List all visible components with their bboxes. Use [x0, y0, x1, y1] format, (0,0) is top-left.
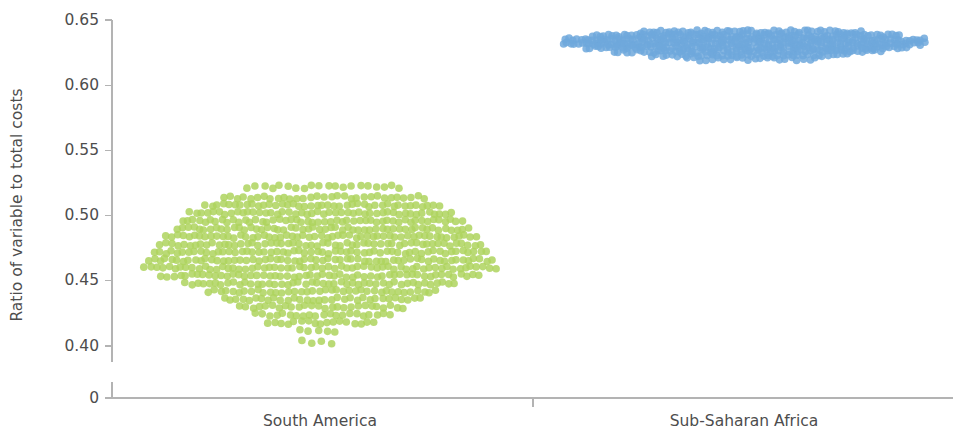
- series-2: [560, 26, 929, 64]
- swarm-point: [420, 195, 428, 203]
- swarm-point: [307, 202, 315, 210]
- swarm-point: [163, 273, 171, 281]
- swarm-point: [844, 50, 852, 58]
- swarm-point: [345, 287, 353, 295]
- swarm-point: [452, 218, 460, 226]
- swarm-point: [276, 273, 284, 281]
- swarm-point: [265, 200, 273, 208]
- swarm-point: [331, 328, 339, 336]
- swarm-point: [264, 319, 272, 327]
- swarm-point: [298, 337, 306, 345]
- swarm-point: [435, 226, 443, 234]
- swarm-point: [362, 302, 370, 310]
- swarm-point: [322, 286, 330, 294]
- swarm-point: [367, 272, 375, 280]
- swarm-point: [340, 304, 348, 312]
- swarm-point: [492, 265, 500, 273]
- swarm-point: [171, 273, 179, 281]
- swarm-point: [416, 294, 424, 302]
- swarm-point: [400, 194, 408, 202]
- swarm-point: [412, 201, 420, 209]
- swarm-point: [365, 311, 373, 319]
- swarm-point: [877, 48, 885, 56]
- swarm-point: [227, 210, 235, 218]
- swarm-point: [159, 264, 167, 272]
- swarm-point: [331, 224, 339, 232]
- swarm-point: [210, 286, 218, 294]
- beeswarm-chart: 00.400.450.500.550.600.65 South AmericaS…: [0, 0, 953, 435]
- swarm-point: [242, 303, 250, 311]
- swarm-point: [339, 184, 347, 192]
- swarm-point: [298, 317, 306, 325]
- swarm-point: [236, 201, 244, 209]
- swarm-point: [384, 200, 392, 208]
- swarm-point: [288, 264, 296, 272]
- swarm-point: [295, 240, 303, 248]
- swarm-point: [388, 240, 396, 248]
- swarm-point: [452, 247, 460, 255]
- swarm-point: [482, 248, 490, 256]
- swarm-point: [411, 224, 419, 232]
- y-tick-label: 0.65: [64, 11, 99, 29]
- swarm-point: [242, 265, 250, 273]
- swarm-point: [301, 185, 309, 193]
- swarm-point: [309, 287, 317, 295]
- swarm-point: [277, 320, 285, 328]
- swarm-point: [921, 39, 929, 47]
- swarm-point: [338, 209, 346, 217]
- swarm-point: [284, 272, 292, 280]
- swarm-point: [237, 240, 245, 248]
- swarm-point: [359, 294, 367, 302]
- swarm-point: [305, 317, 313, 325]
- swarm-point: [476, 255, 484, 263]
- swarm-point: [230, 278, 238, 286]
- swarm-point: [231, 249, 239, 257]
- swarm-point: [339, 231, 347, 239]
- swarm-point: [370, 318, 378, 326]
- swarm-point: [452, 256, 460, 264]
- swarm-point: [243, 257, 251, 265]
- swarm-point: [254, 242, 262, 250]
- swarm-point: [357, 182, 365, 190]
- swarm-point: [435, 216, 443, 224]
- swarm-point: [271, 281, 279, 289]
- swarm-point: [363, 318, 371, 326]
- swarm-point: [413, 263, 421, 271]
- swarm-point: [249, 208, 257, 216]
- swarm-point: [357, 233, 365, 241]
- swarm-point: [354, 271, 362, 279]
- swarm-point: [413, 271, 421, 279]
- swarm-point: [397, 233, 405, 241]
- swarm-point: [346, 294, 354, 302]
- swarm-point: [781, 55, 789, 63]
- swarm-point: [360, 262, 368, 270]
- swarm-point: [308, 182, 316, 190]
- swarm-point: [370, 240, 378, 248]
- swarm-point: [371, 295, 379, 303]
- swarm-point: [811, 54, 819, 62]
- swarm-point: [380, 232, 388, 240]
- swarm-point: [353, 310, 361, 318]
- swarm-point: [311, 233, 319, 241]
- swarm-point: [385, 295, 393, 303]
- swarm-point: [336, 270, 344, 278]
- swarm-point: [800, 55, 808, 63]
- swarm-point: [199, 271, 207, 279]
- swarm-point: [394, 249, 402, 257]
- swarm-point: [346, 310, 354, 318]
- swarm-point: [702, 57, 710, 65]
- y-tick-label: 0.45: [64, 271, 99, 289]
- swarm-point: [292, 224, 300, 232]
- swarm-point: [267, 255, 275, 263]
- swarm-point: [395, 184, 403, 192]
- swarm-point: [261, 182, 269, 190]
- swarm-point: [336, 256, 344, 264]
- swarm-point: [380, 310, 388, 318]
- swarm-point: [309, 223, 317, 231]
- swarm-point: [251, 309, 259, 317]
- swarm-point: [683, 54, 691, 62]
- swarm-point: [320, 311, 328, 319]
- swarm-point: [213, 201, 221, 209]
- swarm-point: [450, 280, 458, 288]
- x-axis: [112, 398, 953, 407]
